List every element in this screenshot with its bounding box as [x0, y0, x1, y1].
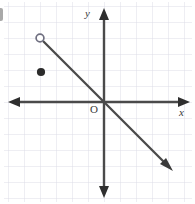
- y-axis-bottom-arrowhead: [99, 186, 109, 198]
- x-axis-left-arrowhead: [8, 97, 20, 107]
- origin-label: O: [90, 104, 98, 115]
- y-axis-label: y: [85, 8, 90, 19]
- left-edge-mark: [0, 8, 3, 21]
- coordinate-plane-figure: y x O: [0, 0, 195, 204]
- filled-point-marker: [37, 68, 45, 76]
- plot-canvas: [0, 0, 195, 204]
- open-circle-endpoint: [36, 34, 44, 42]
- y-axis-top-arrowhead: [99, 8, 109, 20]
- x-axis-label: x: [179, 107, 184, 118]
